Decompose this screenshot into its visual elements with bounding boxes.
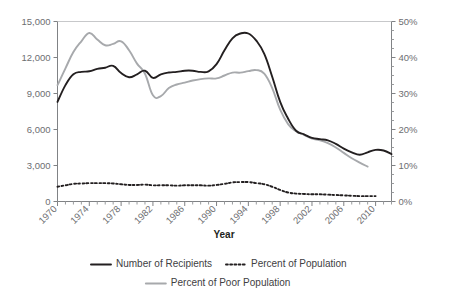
y2-axis-tick-label: 0% xyxy=(399,196,413,207)
y2-axis-tick-label: 40% xyxy=(399,52,419,63)
y-axis-tick-label: 15,000 xyxy=(21,16,50,27)
legend-label: Percent of Poor Population xyxy=(171,277,291,288)
y-axis-tick-label: 3,000 xyxy=(27,160,51,171)
y2-axis-tick-label: 10% xyxy=(399,160,419,171)
y2-axis-tick-label: 50% xyxy=(399,16,419,27)
y-axis-tick-label: 9,000 xyxy=(27,88,51,99)
y-axis-tick-label: 6,000 xyxy=(27,124,51,135)
y-axis-tick-label: 12,000 xyxy=(21,52,50,63)
y2-axis-tick-label: 20% xyxy=(399,124,419,135)
x-axis-title: Year xyxy=(213,229,234,240)
legend-label: Percent of Population xyxy=(251,258,347,269)
y2-axis-tick-label: 30% xyxy=(399,88,419,99)
line-chart: 03,0006,0009,00012,00015,000 0%10%20%30%… xyxy=(0,0,454,301)
chart-container: 03,0006,0009,00012,00015,000 0%10%20%30%… xyxy=(0,0,454,301)
legend-label: Number of Recipients xyxy=(116,258,212,269)
